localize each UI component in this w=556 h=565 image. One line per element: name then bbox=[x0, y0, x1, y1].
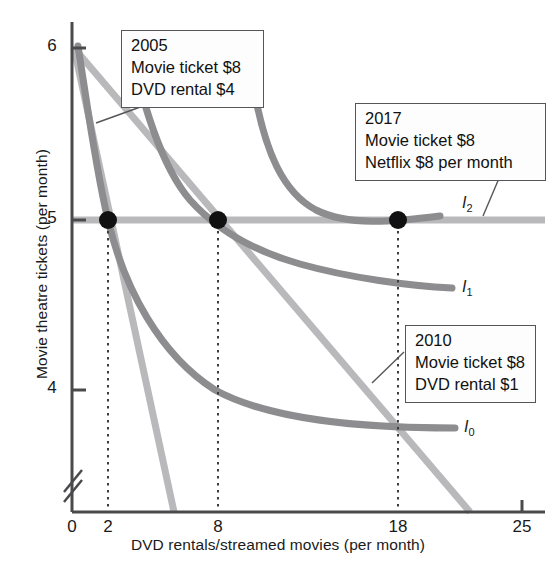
x-tick-label-0: 0 bbox=[52, 517, 92, 537]
curve-label-i2-sub: 2 bbox=[466, 202, 472, 214]
callout-2005-line1: Movie ticket $8 bbox=[131, 57, 254, 79]
curve-label-i1: I1 bbox=[462, 278, 473, 298]
chart-canvas: Movie theatre tickets (per month) DVD re… bbox=[0, 0, 556, 565]
callout-2005-line2: DVD rental $4 bbox=[131, 79, 254, 101]
y-tick-label-4: 4 bbox=[32, 378, 72, 398]
x-tick-label-2: 2 bbox=[88, 517, 128, 537]
equilibrium-point-2017 bbox=[389, 211, 407, 229]
x-tick-label-25: 25 bbox=[502, 517, 542, 537]
y-axis-title: Movie theatre tickets (per month) bbox=[33, 119, 51, 409]
callout-2017-line1: Movie ticket $8 bbox=[365, 130, 536, 152]
y-tick-label-5: 5 bbox=[32, 208, 72, 228]
callout-2005: 2005 Movie ticket $8 DVD rental $4 bbox=[121, 30, 264, 108]
leader-line-2010 bbox=[372, 352, 404, 383]
x-axis-title: DVD rentals/streamed movies (per month) bbox=[0, 536, 556, 554]
equilibrium-point-2010 bbox=[209, 211, 227, 229]
y-tick-label-6: 6 bbox=[32, 36, 72, 56]
curve-label-i1-sub: 1 bbox=[466, 286, 472, 298]
callout-2017: 2017 Movie ticket $8 Netflix $8 per mont… bbox=[355, 103, 546, 181]
x-tick-label-8: 8 bbox=[198, 517, 238, 537]
callout-2010-line1: Movie ticket $8 bbox=[415, 352, 526, 374]
callout-2017-year: 2017 bbox=[365, 108, 536, 130]
x-tick-label-18: 18 bbox=[378, 517, 418, 537]
callout-2010: 2010 Movie ticket $8 DVD rental $1 bbox=[405, 325, 536, 403]
curve-label-i0: I0 bbox=[464, 418, 475, 438]
callout-2010-year: 2010 bbox=[415, 330, 526, 352]
curve-label-i0-sub: 0 bbox=[468, 426, 474, 438]
chart-graphics bbox=[0, 0, 556, 565]
curve-label-i2: I2 bbox=[462, 194, 473, 214]
leader-line-2017 bbox=[483, 176, 500, 216]
callout-2010-line2: DVD rental $1 bbox=[415, 374, 526, 396]
callout-2005-year: 2005 bbox=[131, 35, 254, 57]
callout-2017-line2: Netflix $8 per month bbox=[365, 152, 536, 174]
equilibrium-point-2005 bbox=[99, 211, 117, 229]
